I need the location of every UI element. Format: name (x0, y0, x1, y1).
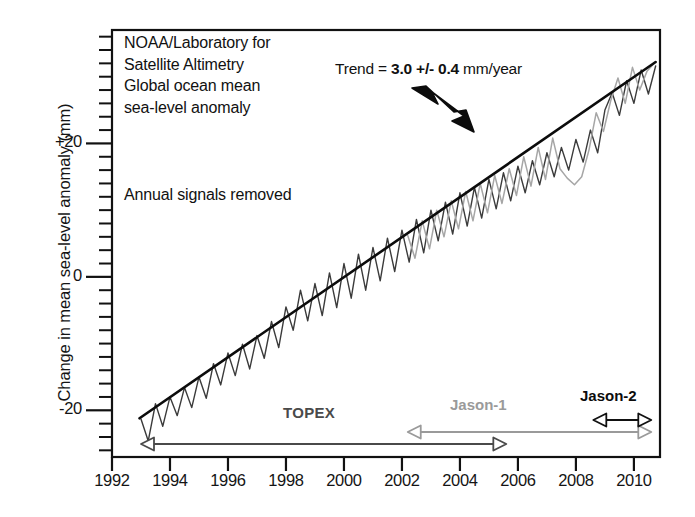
x-tick-label: 1998 (256, 471, 316, 490)
y-tick-label: -20 (30, 399, 82, 418)
x-tick-label: 1994 (140, 471, 200, 490)
x-tick-label: 2000 (314, 471, 374, 490)
y-axis-minor-ticks (86, 37, 112, 451)
caption-line-2: Satellite Altimetry (124, 56, 244, 73)
trend-arrow-icon (412, 86, 474, 132)
y-tick-label: 0 (30, 266, 82, 285)
x-axis-ticks (112, 457, 634, 471)
x-tick-label: 2002 (372, 471, 432, 490)
mission-label-topex: TOPEX (283, 404, 335, 421)
trend-suffix: mm/year (459, 60, 522, 77)
mission-arrow-jason-2 (593, 414, 651, 427)
series-topex-sea-level-anomaly (141, 66, 656, 441)
mission-arrow-jason-1 (408, 426, 652, 439)
trend-annotation: Trend = 3.0 +/- 0.4 mm/year (335, 58, 522, 80)
x-tick-label: 2008 (546, 471, 606, 490)
y-axis-label: Change in mean sea-level anomaly (mm) (55, 63, 74, 443)
mission-arrow-topex (141, 438, 506, 451)
x-tick-label: 1996 (198, 471, 258, 490)
mission-label-jason-1: Jason-1 (450, 396, 507, 413)
caption-line-4: sea-level anomaly (124, 99, 250, 116)
trend-value: 3.0 +/- 0.4 (391, 60, 459, 77)
x-tick-label: 1992 (82, 471, 142, 490)
trend-prefix: Trend = (335, 60, 391, 77)
y-tick-label: +20 (30, 132, 82, 151)
x-tick-label: 2006 (488, 471, 548, 490)
caption-line-1: NOAA/Laboratory for (124, 34, 271, 51)
annual-signals-note: Annual signals removed (124, 184, 291, 206)
chart-figure: Change in mean sea-level anomaly (mm) NO… (0, 0, 695, 517)
chart-caption: NOAA/Laboratory for Satellite Altimetry … (124, 32, 271, 118)
caption-line-3: Global ocean mean (124, 77, 260, 94)
x-tick-label: 2010 (604, 471, 664, 490)
series-jason-1-sea-level-anomaly (408, 63, 654, 258)
mission-label-jason-2: Jason-2 (580, 387, 637, 404)
x-tick-label: 2004 (430, 471, 490, 490)
